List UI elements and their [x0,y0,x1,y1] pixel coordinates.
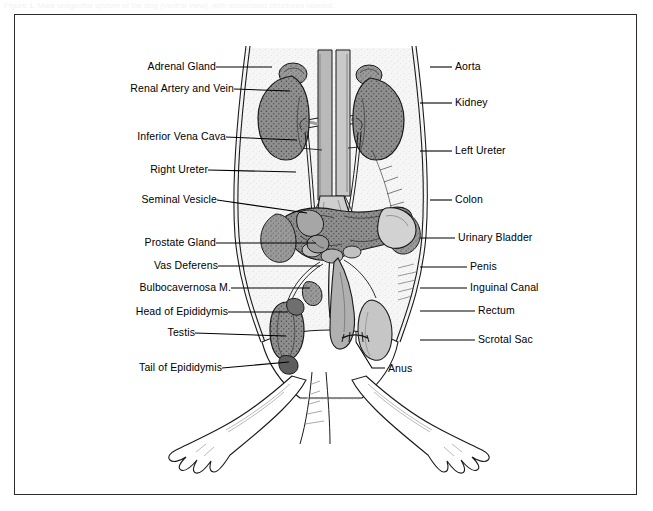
label-urinary-bladder: Urinary Bladder [458,232,532,243]
label-rectum: Rectum [478,305,515,316]
label-head-of-epididymis: Head of Epididymis [108,306,228,317]
label-scrotal-sac: Scrotal Sac [478,334,533,345]
label-left-ureter: Left Ureter [455,145,506,156]
label-testis: Testis [145,327,195,338]
label-bulbocavernosa-muscle: Bulbocavernosa M. [107,282,231,293]
label-prostate-gland: Prostate Gland [110,237,216,248]
label-inferior-vena-cava: Inferior Vena Cava [106,131,226,142]
label-inguinal-canal: Inguinal Canal [470,282,539,293]
label-aorta: Aorta [455,61,481,72]
label-kidney: Kidney [455,97,488,108]
label-right-ureter: Right Ureter [118,164,208,175]
label-penis: Penis [470,261,497,272]
label-vas-deferens: Vas Deferens [120,260,218,271]
label-anus: Anus [388,363,412,374]
label-seminal-vesicle: Seminal Vesicle [108,194,217,205]
label-tail-of-epididymis: Tail of Epididymis [113,362,222,373]
anatomy-illustration [0,0,653,511]
label-colon: Colon [455,194,483,205]
label-adrenal-gland: Adrenal Gland [103,61,216,72]
label-renal-artery-and-vein: Renal Artery and Vein [101,83,234,94]
